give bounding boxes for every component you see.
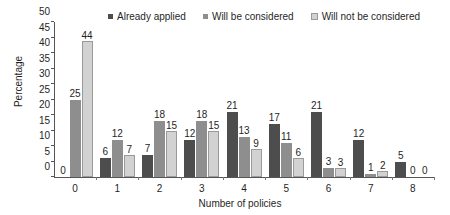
- bar: 9: [251, 149, 262, 177]
- bar: 3: [323, 168, 334, 177]
- legend-entry-already-applied: Already applied: [108, 11, 186, 22]
- bar-value-label: 17: [269, 113, 280, 123]
- chart-legend: Already applied Will be considered Will …: [108, 11, 420, 22]
- x-tick-mark: [350, 177, 351, 180]
- bar: 6: [100, 158, 111, 177]
- x-tick-mark: [181, 177, 182, 180]
- bar: 15: [208, 131, 219, 178]
- legend-swatch-already-applied: [108, 14, 113, 19]
- bar: 1: [365, 174, 376, 177]
- bar-value-label: 3: [326, 157, 332, 167]
- bar-value-label: 18: [196, 110, 207, 120]
- bar-value-label: 5: [398, 151, 404, 161]
- x-tick-label: 5: [266, 183, 306, 194]
- x-tick-label: 4: [224, 183, 264, 194]
- y-tick-label: 35: [4, 54, 50, 64]
- bar-value-label: 25: [70, 89, 81, 99]
- x-tick-label: 3: [182, 183, 222, 194]
- y-tick-mark: [51, 176, 54, 177]
- x-tick-mark: [265, 177, 266, 180]
- bar-value-label: 6: [295, 148, 301, 158]
- x-tick-label: 7: [351, 183, 391, 194]
- bar: 21: [311, 112, 322, 177]
- y-tick-label: 50: [4, 7, 50, 17]
- x-tick-label: 1: [97, 183, 137, 194]
- legend-label-will-be-considered: Will be considered: [212, 11, 294, 22]
- bar-value-label: 6: [103, 147, 109, 157]
- bar-value-label: 44: [82, 31, 93, 41]
- bar: 25: [70, 100, 81, 178]
- bar: 7: [124, 155, 135, 177]
- bar: 21: [227, 112, 238, 177]
- y-tick-mark: [51, 145, 54, 146]
- x-tick-mark: [223, 177, 224, 180]
- x-tick-label: 2: [140, 183, 180, 194]
- y-tick-mark: [51, 37, 54, 38]
- y-tick-label: 20: [4, 100, 50, 110]
- bar-chart: Already applied Will be considered Will …: [0, 0, 450, 215]
- bar-value-label: 12: [112, 129, 123, 139]
- y-tick-label: 0: [4, 162, 50, 172]
- bar-value-label: 12: [353, 129, 364, 139]
- bar-value-label: 18: [154, 110, 165, 120]
- plot-area: 05101520253035404550 012345678 025446127…: [54, 22, 434, 177]
- bar: 18: [154, 121, 165, 177]
- x-tick-label: 6: [308, 183, 348, 194]
- bar-value-label: 2: [380, 161, 386, 171]
- bar: 7: [142, 155, 153, 177]
- legend-label-will-not-be-considered: Will not be considered: [322, 11, 420, 22]
- legend-swatch-will-not-be-considered: [311, 13, 318, 20]
- x-axis-line: [54, 177, 434, 178]
- bar-value-label: 15: [166, 121, 177, 131]
- bar-value-label: 3: [338, 158, 344, 168]
- x-tick-label: 0: [55, 183, 95, 194]
- bar-value-label: 0: [410, 166, 416, 176]
- y-tick-label: 40: [4, 38, 50, 48]
- bar: 2: [377, 171, 388, 177]
- x-tick-mark: [96, 177, 97, 180]
- y-tick-label: 15: [4, 116, 50, 126]
- bar: 12: [353, 140, 364, 177]
- bar-value-label: 9: [253, 139, 259, 149]
- x-tick-mark: [434, 177, 435, 180]
- bar-value-label: 7: [145, 144, 151, 154]
- bar: 12: [184, 140, 195, 177]
- bar: 5: [395, 162, 406, 178]
- bar-value-label: 7: [127, 145, 133, 155]
- legend-swatch-will-be-considered: [203, 14, 208, 19]
- y-tick-mark: [51, 83, 54, 84]
- bar-value-label: 11: [281, 132, 291, 142]
- bar-value-label: 21: [311, 101, 322, 111]
- y-tick-mark: [51, 114, 54, 115]
- y-tick-mark: [51, 161, 54, 162]
- bar: 17: [269, 124, 280, 177]
- x-tick-mark: [307, 177, 308, 180]
- bar: 15: [166, 131, 177, 178]
- bar-value-label: 0: [422, 166, 428, 176]
- y-tick-label: 30: [4, 69, 50, 79]
- bar: 3: [335, 168, 346, 177]
- bar-value-label: 0: [60, 166, 66, 176]
- bar-value-label: 1: [368, 163, 374, 173]
- bar-value-label: 12: [184, 129, 195, 139]
- legend-entry-will-not-be-considered: Will not be considered: [311, 11, 420, 22]
- legend-entry-will-be-considered: Will be considered: [203, 11, 294, 22]
- y-tick-mark: [51, 99, 54, 100]
- bar: 12: [112, 140, 123, 177]
- bar-value-label: 21: [226, 101, 237, 111]
- bar-value-label: 13: [238, 126, 249, 136]
- x-tick-mark: [138, 177, 139, 180]
- x-tick-mark: [392, 177, 393, 180]
- bar: 11: [281, 143, 292, 177]
- bar: 44: [82, 41, 93, 177]
- y-tick-mark: [51, 130, 54, 131]
- bar: 13: [239, 137, 250, 177]
- y-tick-label: 25: [4, 85, 50, 95]
- y-tick-label: 5: [4, 147, 50, 157]
- bar: 18: [196, 121, 207, 177]
- y-axis-line: [54, 22, 55, 177]
- bar: 6: [293, 158, 304, 177]
- y-tick-mark: [51, 52, 54, 53]
- legend-label-already-applied: Already applied: [117, 11, 186, 22]
- x-axis-title: Number of policies: [40, 198, 440, 209]
